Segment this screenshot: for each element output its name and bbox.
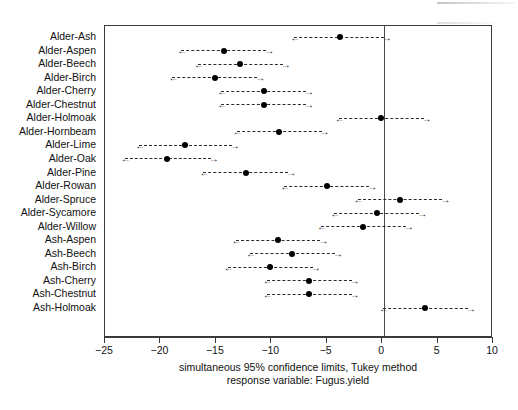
category-label: Ash-Holmoak [33, 302, 96, 313]
interval-upper-cap-icon [320, 126, 326, 137]
confidence-interval-row [104, 181, 492, 192]
confidence-interval-row [104, 140, 492, 151]
confidence-interval-row [104, 262, 492, 273]
estimate-marker [243, 170, 249, 176]
interval-upper-cap-icon [367, 181, 373, 192]
interval-upper-cap-icon [230, 140, 236, 151]
interval-lower-cap-icon [317, 221, 323, 232]
estimate-marker [306, 278, 312, 284]
interval-lower-cap-icon [246, 248, 252, 259]
category-label: Alder-Willow [38, 221, 96, 232]
estimate-marker [360, 224, 366, 230]
x-tick [159, 337, 160, 343]
category-label: Ash-Chestnut [32, 288, 96, 299]
confidence-interval-row [104, 275, 492, 286]
interval-upper-cap-icon [350, 289, 356, 300]
interval-lower-cap-icon [217, 99, 223, 110]
estimate-marker [306, 291, 312, 297]
interval-lower-cap-icon [135, 140, 141, 151]
interval-lower-cap-icon [335, 113, 341, 124]
estimate-marker [422, 305, 428, 311]
confidence-interval-row [104, 126, 492, 137]
x-tick [492, 337, 493, 343]
category-label: Ash-Aspen [45, 234, 96, 245]
interval-series [104, 25, 492, 337]
category-label: Ash-Birch [50, 261, 96, 272]
category-axis-labels: Alder-AshAlder-AspenAlder-BeechAlder-Bir… [0, 25, 100, 337]
x-tick [381, 337, 382, 343]
confidence-interval-row [104, 72, 492, 83]
confidence-interval-row [104, 99, 492, 110]
confidence-interval-row [104, 221, 492, 232]
x-tick [270, 337, 271, 343]
confidence-interval-row [104, 167, 492, 178]
interval-lower-cap-icon [354, 194, 360, 205]
interval-lower-cap-icon [177, 45, 183, 56]
interval-lower-cap-icon [280, 181, 286, 192]
interval-upper-cap-icon [466, 303, 472, 314]
category-label: Alder-Pine [47, 167, 96, 178]
interval-lower-cap-icon [121, 153, 127, 164]
category-label: Alder-Lime [45, 139, 96, 150]
estimate-marker [267, 264, 273, 270]
interval-upper-cap-icon [350, 275, 356, 286]
x-tick [437, 337, 438, 343]
estimate-marker [221, 48, 227, 54]
x-tick [104, 337, 105, 343]
interval-lower-cap-icon [168, 72, 174, 83]
x-tick-label: −20 [139, 344, 179, 356]
interval-lower-cap-icon [224, 262, 230, 273]
confidence-interval-row [104, 86, 492, 97]
category-label: Ash-Cherry [43, 275, 96, 286]
x-tick [215, 337, 216, 343]
caption-line-1: simultaneous 95% confidence limits, Tuke… [104, 361, 492, 374]
category-label: Ash-Beech [45, 248, 96, 259]
estimate-marker [289, 251, 295, 257]
x-tick-label: −25 [84, 344, 124, 356]
estimate-marker [261, 102, 267, 108]
confidence-interval-row [104, 248, 492, 259]
confidence-interval-chart: Alder-AshAlder-AspenAlder-BeechAlder-Bir… [0, 0, 518, 410]
chart-caption: simultaneous 95% confidence limits, Tuke… [104, 361, 492, 387]
interval-lower-cap-icon [217, 86, 223, 97]
caption-line-2: response variable: Fugus.yield [104, 374, 492, 387]
estimate-marker [275, 237, 281, 243]
interval-upper-cap-icon [304, 99, 310, 110]
confidence-interval-row [104, 235, 492, 246]
interval-lower-cap-icon [194, 59, 200, 70]
estimate-marker [374, 210, 380, 216]
category-label: Alder-Birch [44, 72, 96, 83]
estimate-marker [164, 156, 170, 162]
interval-lower-cap-icon [290, 32, 296, 43]
estimate-marker [212, 75, 218, 81]
x-axis-line [104, 337, 492, 338]
confidence-interval-row [104, 45, 492, 56]
interval-lower-cap-icon [379, 303, 385, 314]
confidence-interval-row [104, 289, 492, 300]
category-label: Alder-Sycamore [21, 207, 96, 218]
interval-lower-cap-icon [232, 235, 238, 246]
category-label: Alder-Spruce [35, 194, 96, 205]
confidence-interval-row [104, 32, 492, 43]
confidence-interval-row [104, 208, 492, 219]
interval-upper-cap-icon [264, 45, 270, 56]
confidence-interval-row [104, 153, 492, 164]
estimate-marker [276, 129, 282, 135]
category-label: Alder-Ash [50, 31, 96, 42]
interval-lower-cap-icon [233, 126, 239, 137]
estimate-marker [397, 197, 403, 203]
interval-upper-cap-icon [417, 208, 423, 219]
x-tick-label: 10 [472, 344, 512, 356]
interval-upper-cap-icon [333, 248, 339, 259]
category-label: Alder-Chestnut [26, 99, 96, 110]
interval-upper-cap-icon [422, 113, 428, 124]
confidence-interval-row [104, 59, 492, 70]
interval-upper-cap-icon [318, 235, 324, 246]
estimate-marker [237, 61, 243, 67]
estimate-marker [324, 183, 330, 189]
confidence-interval-row [104, 303, 492, 314]
estimate-marker [378, 115, 384, 121]
interval-upper-cap-icon [304, 86, 310, 97]
x-tick [326, 337, 327, 343]
estimate-marker [261, 88, 267, 94]
